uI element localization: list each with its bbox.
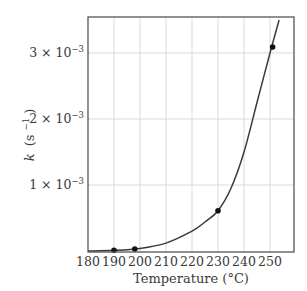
fitted-curve — [88, 20, 279, 251]
y-axis-label-close: ) — [22, 109, 37, 114]
x-axis-tick-labels: 180190200210220230240250 — [76, 254, 282, 269]
x-tick-label: 240 — [232, 254, 256, 269]
x-tick-label: 210 — [154, 254, 178, 269]
y-tick-label: 1 × 10−3 — [29, 176, 84, 192]
x-axis-label: Temperature (°C) — [133, 271, 249, 286]
x-tick-label: 190 — [102, 254, 126, 269]
data-point — [270, 44, 276, 50]
x-tick-label: 220 — [180, 254, 204, 269]
y-axis-label-unit: (s — [22, 135, 37, 147]
x-tick-label: 230 — [206, 254, 230, 269]
data-points — [111, 44, 275, 253]
data-point — [132, 246, 138, 252]
x-tick-label: 250 — [258, 254, 282, 269]
y-axis-tick-labels: 1 × 10−32 × 10−33 × 10−3 — [29, 44, 84, 192]
y-axis-label-exp: −1 — [21, 118, 31, 131]
x-tick-label: 180 — [76, 254, 100, 269]
plot-frame — [88, 17, 294, 252]
rate-constant-chart: 180190200210220230240250 1 × 10−32 × 10−… — [0, 0, 307, 291]
y-axis-label-var: k — [22, 153, 37, 161]
fit-curve-path — [88, 20, 279, 251]
y-tick-label: 3 × 10−3 — [29, 44, 84, 60]
y-tick-label: 2 × 10−3 — [29, 110, 84, 126]
x-tick-label: 200 — [128, 254, 152, 269]
grid-lines — [88, 17, 294, 252]
data-point — [215, 208, 221, 214]
